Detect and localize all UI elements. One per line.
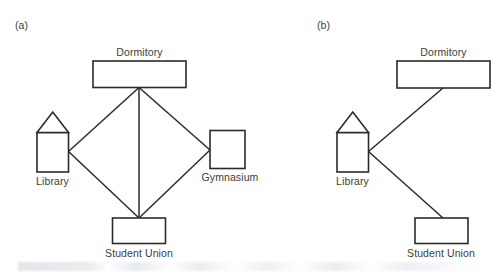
edge-gymnasium-student-union (139, 150, 210, 218)
edge-dormitory-library (69, 88, 140, 152)
panel-b-edges (369, 88, 444, 218)
node-dormitory-a[interactable] (93, 61, 186, 88)
node-library-b[interactable] (337, 112, 369, 172)
panel-b-nodes (337, 61, 490, 244)
caption-student-union-a: Student Union (99, 247, 179, 259)
caption-dormitory-b: Dormitory (397, 46, 490, 58)
caption-library-b: Library (322, 175, 383, 187)
node-gymnasium-a[interactable] (210, 131, 245, 169)
node-student-union-a[interactable] (113, 218, 166, 244)
library-roof-a (37, 112, 69, 133)
diagram-drawing-layer (0, 0, 499, 275)
panel-a-edges (69, 88, 211, 219)
figure-container: (a) (b) (0, 0, 499, 275)
library-body-a (37, 133, 69, 173)
caption-library-a: Library (22, 175, 83, 187)
node-dormitory-b[interactable] (397, 61, 490, 88)
library-roof-b (337, 112, 369, 133)
library-body-b (337, 133, 369, 173)
caption-student-union-b: Student Union (401, 247, 481, 259)
edge-library-dormitory-b (369, 88, 444, 152)
caption-dormitory-a: Dormitory (93, 46, 186, 58)
node-library-a[interactable] (37, 112, 69, 172)
node-student-union-b[interactable] (415, 218, 468, 244)
edge-dormitory-gymnasium (139, 88, 210, 151)
caption-gymnasium-a: Gymnasium (199, 171, 261, 183)
